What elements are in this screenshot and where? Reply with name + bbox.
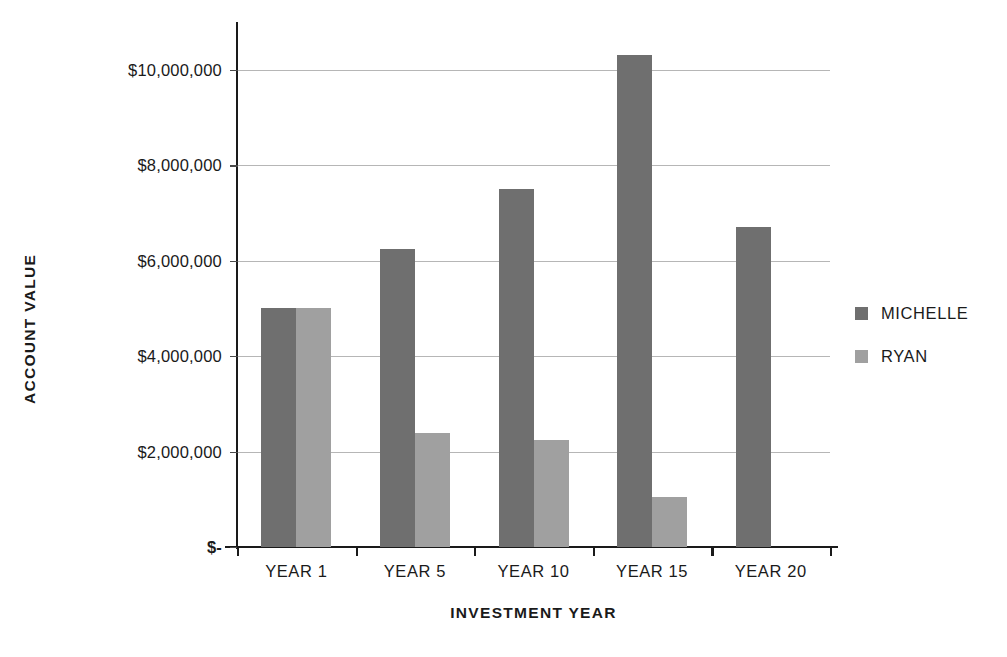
y-axis-tick-mark	[230, 356, 238, 357]
x-axis-tick-mark	[237, 547, 239, 556]
y-axis-tick-label: $-	[207, 538, 222, 557]
y-axis-tick-mark	[230, 70, 238, 71]
legend-item-michelle[interactable]: MICHELLE	[855, 292, 1005, 335]
y-axis-tick-mark	[230, 261, 238, 262]
x-axis-tick-label: YEAR 5	[384, 562, 446, 581]
bar-michelle-year-20	[736, 227, 771, 547]
legend: MICHELLERYAN	[855, 292, 1005, 378]
y-axis-tick-label: $10,000,000	[128, 60, 222, 79]
bar-michelle-year-15	[617, 55, 652, 547]
x-axis-tick-label: YEAR 1	[265, 562, 327, 581]
x-axis-tick-mark	[593, 547, 595, 556]
y-axis-tick-labels: $-$2,000,000$4,000,000$6,000,000$8,000,0…	[60, 0, 230, 657]
y-axis-tick-label: $6,000,000	[137, 251, 222, 270]
y-axis-tick-label: $2,000,000	[137, 442, 222, 461]
legend-item-ryan[interactable]: RYAN	[855, 335, 1005, 378]
bars-layer	[237, 22, 830, 547]
x-axis-tick-mark	[356, 547, 358, 556]
legend-item-label: MICHELLE	[881, 304, 968, 323]
legend-swatch-icon	[855, 350, 868, 363]
y-axis-tick-mark	[230, 452, 238, 453]
y-axis-title: ACCOUNT VALUE	[0, 0, 60, 657]
y-axis-title-label: ACCOUNT VALUE	[21, 253, 39, 403]
legend-swatch-icon	[855, 307, 868, 320]
bar-michelle-year-10	[499, 189, 534, 547]
x-axis-tick-mark	[830, 547, 832, 556]
bar-ryan-year-1	[296, 308, 331, 547]
x-axis-tick-labels: YEAR 1YEAR 5YEAR 10YEAR 15YEAR 20	[237, 562, 830, 588]
bar-ryan-year-10	[534, 440, 569, 547]
x-axis-tick-label: YEAR 20	[735, 562, 807, 581]
legend-item-label: RYAN	[881, 347, 928, 366]
y-axis-tick-mark	[230, 165, 238, 166]
bar-michelle-year-5	[380, 249, 415, 547]
y-axis-tick-label: $4,000,000	[137, 347, 222, 366]
y-axis-tick-label: $8,000,000	[137, 156, 222, 175]
bar-ryan-year-15	[652, 497, 687, 547]
bar-michelle-year-1	[261, 308, 296, 547]
x-axis-tick-label: YEAR 10	[497, 562, 569, 581]
bar-chart-figure: ACCOUNT VALUE $-$2,000,000$4,000,000$6,0…	[0, 0, 1007, 657]
bar-ryan-year-5	[415, 433, 450, 548]
x-axis-tick-mark	[474, 547, 476, 556]
x-axis-tick-label: YEAR 15	[616, 562, 688, 581]
x-axis-tick-mark	[711, 547, 713, 556]
x-axis-title: INVESTMENT YEAR	[237, 604, 830, 622]
